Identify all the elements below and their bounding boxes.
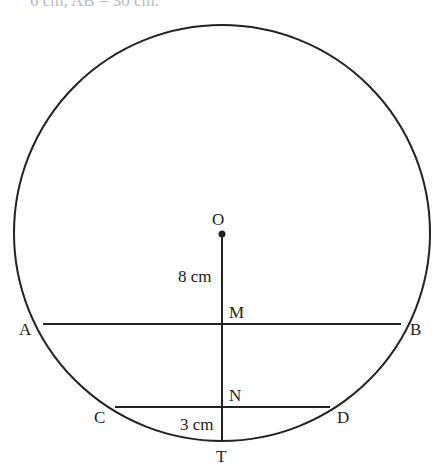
label-B: B bbox=[410, 320, 421, 339]
label-M: M bbox=[229, 303, 244, 322]
label-T: T bbox=[216, 447, 227, 466]
label-D: D bbox=[337, 408, 349, 427]
label-O: O bbox=[212, 210, 224, 229]
label-N: N bbox=[229, 386, 241, 405]
label-3cm: 3 cm bbox=[180, 415, 214, 434]
circle-chord-diagram: O 8 cm M A B N C D 3 cm T bbox=[0, 0, 443, 474]
center-point-O bbox=[219, 231, 226, 238]
label-C: C bbox=[94, 408, 105, 427]
label-8cm: 8 cm bbox=[178, 267, 212, 286]
label-A: A bbox=[19, 320, 32, 339]
